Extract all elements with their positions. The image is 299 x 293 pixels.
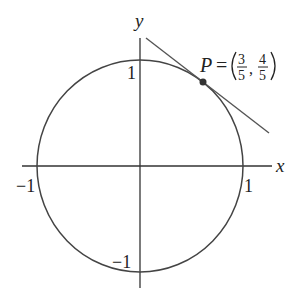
- unit-circle-diagram: x y −1 1 1 −1 P = 3 5 , 4 5: [0, 0, 299, 293]
- tick-y-neg: −1: [112, 252, 131, 272]
- left-paren: [232, 52, 236, 80]
- comma: ,: [249, 60, 253, 77]
- tick-x-pos: 1: [244, 176, 253, 196]
- x-axis-label: x: [275, 155, 285, 176]
- tick-y-pos: 1: [127, 63, 136, 83]
- x-denominator: 5: [238, 68, 245, 83]
- point-name: P: [199, 54, 212, 76]
- point-p-label: P = 3 5 , 4 5: [199, 52, 275, 83]
- y-numerator: 4: [259, 52, 266, 67]
- right-paren: [271, 52, 275, 80]
- equals-sign: =: [216, 54, 227, 76]
- y-axis-label: y: [133, 10, 144, 31]
- point-p: [200, 79, 207, 86]
- tangent-line: [146, 38, 269, 133]
- tick-x-neg: −1: [16, 176, 35, 196]
- x-numerator: 3: [238, 52, 245, 67]
- y-denominator: 5: [259, 68, 266, 83]
